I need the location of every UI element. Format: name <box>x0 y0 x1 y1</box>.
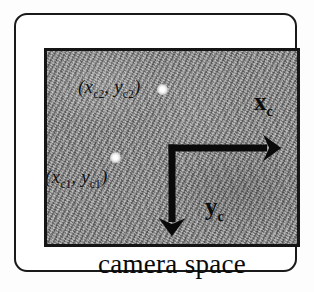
feature-point-dot-2 <box>157 84 168 95</box>
y-axis-label: yc <box>205 193 224 225</box>
figure-caption: camera space <box>44 249 300 280</box>
feature-point-label-2: (xc2, yc2) <box>78 76 140 102</box>
figure-outer-frame: (xc2, yc2) (xc1, yc1) xc yc camera space <box>14 13 297 272</box>
camera-space-figure: (xc2, yc2) (xc1, yc1) xc yc camera space <box>0 0 314 292</box>
feature-point-label-1: (xc1, yc1) <box>45 166 107 192</box>
feature-point-dot-1 <box>110 152 121 163</box>
x-axis-label: xc <box>254 88 273 120</box>
